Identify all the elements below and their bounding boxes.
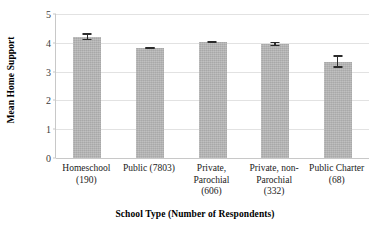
x-tick-label-line: (68) — [300, 175, 374, 187]
bar[interactable] — [324, 62, 352, 158]
error-bar-cap-top — [271, 42, 280, 43]
error-bar-cap-top — [83, 33, 92, 34]
y-tick-label-2: 2 — [46, 95, 51, 106]
gridline-0 — [56, 158, 369, 159]
error-bar-cap-bottom — [83, 39, 92, 40]
y-axis-title: Mean Home Support — [0, 0, 22, 160]
y-tick-mark-2 — [53, 100, 56, 101]
y-tick-mark-0 — [53, 158, 56, 159]
gridline-5 — [56, 14, 369, 15]
bar[interactable] — [199, 42, 227, 158]
error-bar-cap-bottom — [145, 47, 154, 48]
y-tick-mark-3 — [53, 71, 56, 72]
error-bar — [337, 55, 338, 67]
error-bar — [87, 33, 88, 40]
bar[interactable] — [136, 48, 164, 158]
error-bar — [149, 47, 150, 49]
error-bar-cap-top — [333, 55, 342, 56]
error-bar-cap-bottom — [271, 45, 280, 46]
error-bar-cap-bottom — [333, 66, 342, 67]
error-bar — [274, 42, 275, 46]
y-tick-label-4: 4 — [46, 37, 51, 48]
y-tick-label-1: 1 — [46, 124, 51, 135]
y-tick-label-0: 0 — [46, 153, 51, 164]
plot-area: 012345 — [55, 14, 369, 158]
x-tick-label-line: Public Charter — [300, 163, 374, 175]
error-bar — [212, 41, 213, 44]
y-tick-mark-5 — [53, 14, 56, 15]
x-axis-title: School Type (Number of Respondents) — [0, 209, 390, 219]
x-tick-label: Public Charter(68) — [300, 163, 374, 186]
bar-chart-figure: Mean Home Support 012345 School Type (Nu… — [0, 0, 390, 228]
y-axis-title-text: Mean Home Support — [6, 36, 16, 123]
y-tick-mark-1 — [53, 129, 56, 130]
x-tick-label-line: (332) — [237, 186, 311, 198]
y-tick-label-3: 3 — [46, 66, 51, 77]
bar[interactable] — [73, 37, 101, 158]
bar[interactable] — [261, 44, 289, 158]
error-bar-cap-bottom — [208, 42, 217, 43]
x-tick-label-line: (190) — [49, 175, 123, 187]
y-tick-mark-4 — [53, 42, 56, 43]
y-tick-label-5: 5 — [46, 9, 51, 20]
